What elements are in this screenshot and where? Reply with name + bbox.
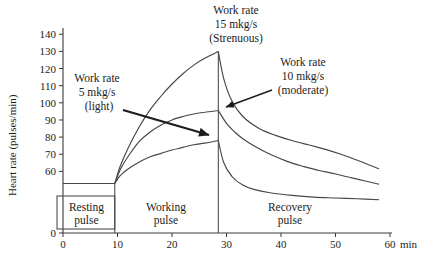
x-tick-label: 0 [60,238,66,250]
heart-rate-figure: 060708090100110120130140 0102030405060 H… [0,0,437,268]
annotation-light: Work rate 5 mkg/s (light) [74,72,209,135]
annotation-strenuous: Work rate 15 mkg/s (Strenuous) [209,4,263,45]
y-tick-label: 140 [40,28,57,40]
y-tick-label: 70 [45,148,57,160]
annotation-moderate-line1: Work rate [280,56,325,68]
annotation-strenuous-line3: (Strenuous) [209,32,263,45]
curve-light-work [115,141,219,184]
annotation-light-line3: (light) [85,100,114,113]
y-tick-label: 100 [40,97,57,109]
y-axis-ticks: 060708090100110120130140 [40,28,64,239]
annotation-strenuous-line1: Work rate [213,4,258,16]
curve-light-recovery [218,141,379,200]
x-tick-label: 50 [330,238,342,250]
resting-label-line2: pulse [74,214,98,227]
annotation-strenuous-line2: 15 mkg/s [215,18,258,31]
x-tick-label: 30 [221,238,233,250]
annotation-moderate: Work rate 10 mkg/s (moderate) [226,56,328,107]
annotation-light-line2: 5 mkg/s [79,86,116,99]
annotation-moderate-line2: 10 mkg/s [282,70,325,83]
y-tick-label: 120 [40,63,57,75]
y-tick-label: 130 [40,45,57,57]
y-tick-label: 80 [45,131,57,143]
x-tick-label: 60 [385,238,397,250]
phase-label-resting: Resting pulse [69,201,104,227]
x-axis-unit-label: min [400,238,418,250]
x-tick-label: 10 [112,238,124,250]
y-axis-label: Heart rate (pulses/min) [6,94,19,196]
working-label-line2: pulse [154,214,178,227]
recovery-label-line1: Recovery [268,201,312,214]
curve-strenuous-recovery [218,51,379,168]
heart-rate-curves [115,51,379,199]
annotation-moderate-line3: (moderate) [278,84,329,97]
y-tick-label: 0 [51,227,57,239]
x-tick-label: 40 [276,238,288,250]
resting-label-line1: Resting [69,201,104,214]
y-tick-label: 60 [45,165,57,177]
y-tick-label: 110 [40,80,57,92]
recovery-label-line2: pulse [278,214,302,227]
working-label-line1: Working [146,201,186,214]
x-tick-label: 20 [167,238,179,250]
curve-moderate-work [115,111,219,184]
moderate-arrow [226,90,272,107]
y-tick-label: 90 [45,114,57,126]
phase-label-working: Working pulse [146,201,186,227]
curve-strenuous-work [115,51,219,183]
x-axis-ticks: 0102030405060 [60,233,396,250]
chart-svg: 060708090100110120130140 0102030405060 H… [0,0,437,268]
annotation-light-line1: Work rate [74,72,119,84]
phase-label-recovery: Recovery pulse [268,201,312,227]
curve-moderate-recovery [218,111,379,185]
